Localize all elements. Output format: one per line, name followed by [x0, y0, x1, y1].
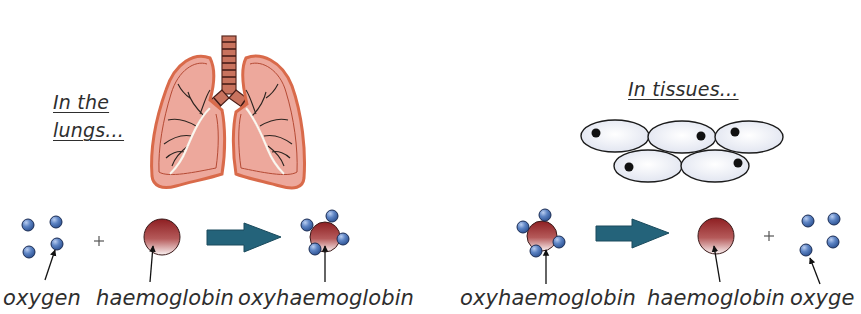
- oxygen-molecule-icon: [827, 236, 839, 248]
- diagram-canvas: In the lungs... In tissues... oxygen hae…: [0, 0, 861, 314]
- oxygen-molecule-icon: [51, 238, 63, 250]
- oxygen-molecule-icon: [22, 219, 34, 231]
- oxygen-molecule-icon: [802, 215, 814, 227]
- oxyhaemoglobin-molecule-icon: [517, 209, 565, 257]
- cell: [614, 150, 682, 182]
- label-oxygen-right: oxyge: [790, 286, 854, 310]
- cell: [648, 121, 716, 153]
- cell: [581, 120, 649, 152]
- oxygen-molecule-icon: [800, 244, 812, 256]
- oxygen-molecules-left: [22, 216, 63, 258]
- oxygen-molecule-icon: [828, 213, 840, 225]
- plus-sign: [94, 236, 104, 246]
- lungs-caption-line1: In the: [53, 91, 109, 113]
- tissues-caption: In tissues...: [628, 75, 739, 103]
- plus-sign: [764, 231, 774, 241]
- lungs-caption: In the lungs...: [53, 88, 124, 144]
- cell: [681, 150, 749, 182]
- cell: [715, 121, 783, 153]
- reaction-arrow-icon: [596, 219, 669, 248]
- lungs-caption-line2: lungs...: [53, 119, 124, 141]
- label-oxygen-left: oxygen: [3, 286, 81, 310]
- label-oxyhaemoglobin-right: oxyhaemoglobin: [460, 286, 636, 310]
- label-oxyhaemoglobin-left: oxyhaemoglobin: [238, 286, 414, 310]
- tissues-caption-text: In tissues...: [628, 78, 739, 100]
- oxygen-molecule-icon: [50, 216, 62, 228]
- reaction-arrow-icon: [207, 223, 281, 252]
- oxygen-molecules-right: [800, 213, 840, 256]
- pointer-arrow-icon: [45, 250, 55, 280]
- label-haemoglobin-right: haemoglobin: [647, 286, 785, 310]
- tissue-cells-illustration: [581, 120, 783, 182]
- oxygen-molecule-icon: [23, 246, 35, 258]
- diagram-graphics: [0, 0, 861, 314]
- lungs-illustration: [152, 36, 305, 188]
- haemoglobin-molecule-icon: [698, 218, 734, 254]
- pointer-arrow-icon: [810, 258, 820, 284]
- haemoglobin-molecule-icon: [144, 219, 180, 255]
- label-haemoglobin-left: haemoglobin: [96, 286, 234, 310]
